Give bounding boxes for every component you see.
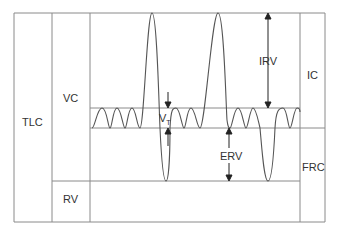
vc-label: VC	[63, 92, 78, 104]
irv-arrow-up-head	[265, 13, 271, 19]
spirometry-trace	[92, 13, 300, 181]
tlc-label: TLC	[22, 116, 43, 128]
erv-arrow-up-head	[226, 128, 232, 134]
frc-label: FRC	[302, 161, 325, 173]
spirogram-svg: TLC VC RV VT IRV ERV IC FRC	[0, 0, 339, 234]
arrows	[165, 13, 271, 181]
ic-label: IC	[307, 69, 318, 81]
irv-arrow-down-head	[265, 102, 271, 108]
erv-arrow-down-head	[226, 175, 232, 181]
erv-label: ERV	[220, 150, 243, 162]
lung-volumes-diagram: TLC VC RV VT IRV ERV IC FRC	[0, 0, 339, 234]
vt-label-subscript: T	[166, 119, 171, 126]
vt-arrow-down-head	[165, 102, 171, 108]
vt-label: VT	[159, 112, 171, 126]
irv-label: IRV	[259, 55, 278, 67]
rv-label: RV	[63, 193, 79, 205]
frame-lines	[14, 13, 325, 222]
